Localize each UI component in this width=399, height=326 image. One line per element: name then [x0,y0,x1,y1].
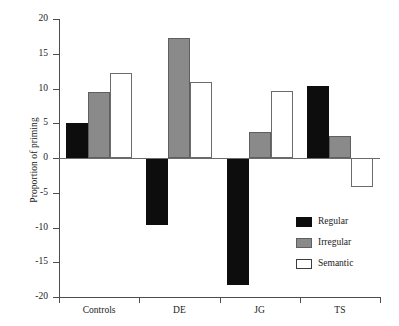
bar-ts-regular [307,86,329,158]
y-axis-tick-label: -5 [8,188,48,198]
legend-swatch-semantic-icon [296,259,312,269]
legend: Regular Irregular Semantic [296,211,353,274]
x-axis-tick [139,297,140,303]
bar-de-regular [146,158,168,225]
x-axis-tick-label: TS [295,305,385,315]
x-axis-tick-label: Controls [54,305,144,315]
y-axis-tick [53,193,59,194]
zero-baseline [59,158,380,159]
y-axis-tick [53,123,59,124]
legend-item-irregular: Irregular [296,232,353,253]
y-axis-tick-label: 10 [8,84,48,94]
legend-label-semantic: Semantic [318,259,353,269]
x-axis-tick [59,297,60,303]
bar-controls-semantic [110,73,132,158]
bar-jg-semantic [271,91,293,158]
legend-item-semantic: Semantic [296,253,353,274]
y-axis-tick-label: -20 [8,292,48,302]
y-axis-tick [53,262,59,263]
y-axis-tick [53,89,59,90]
y-axis-tick [53,54,59,55]
legend-swatch-regular-icon [296,217,312,227]
x-axis-tick-label: JG [215,305,305,315]
legend-label-regular: Regular [318,217,348,227]
x-axis-tick [380,297,381,303]
legend-item-regular: Regular [296,211,353,232]
x-axis-tick [220,297,221,303]
bar-jg-regular [227,158,249,285]
legend-swatch-irregular-icon [296,238,312,248]
y-axis-tick-label: 20 [8,14,48,24]
y-axis-tick-label: 0 [8,153,48,163]
y-axis-tick [53,228,59,229]
bar-controls-irregular [88,92,110,158]
y-axis-tick-label: -10 [8,223,48,233]
y-axis-tick-label: 15 [8,49,48,59]
x-axis-tick [300,297,301,303]
bar-jg-irregular [249,132,271,158]
y-axis-tick [53,19,59,20]
y-axis-tick-label: 5 [8,119,48,129]
bar-ts-irregular [329,136,351,158]
legend-label-irregular: Irregular [318,238,351,248]
bar-chart: Proportion of priming 20151050-5-10-15-2… [0,0,399,326]
bar-de-semantic [190,82,212,158]
bar-de-irregular [168,38,190,158]
bar-ts-semantic [351,158,373,187]
bar-controls-regular [66,123,88,158]
x-axis-tick-label: DE [134,305,224,315]
y-axis-tick-label: -15 [8,258,48,268]
